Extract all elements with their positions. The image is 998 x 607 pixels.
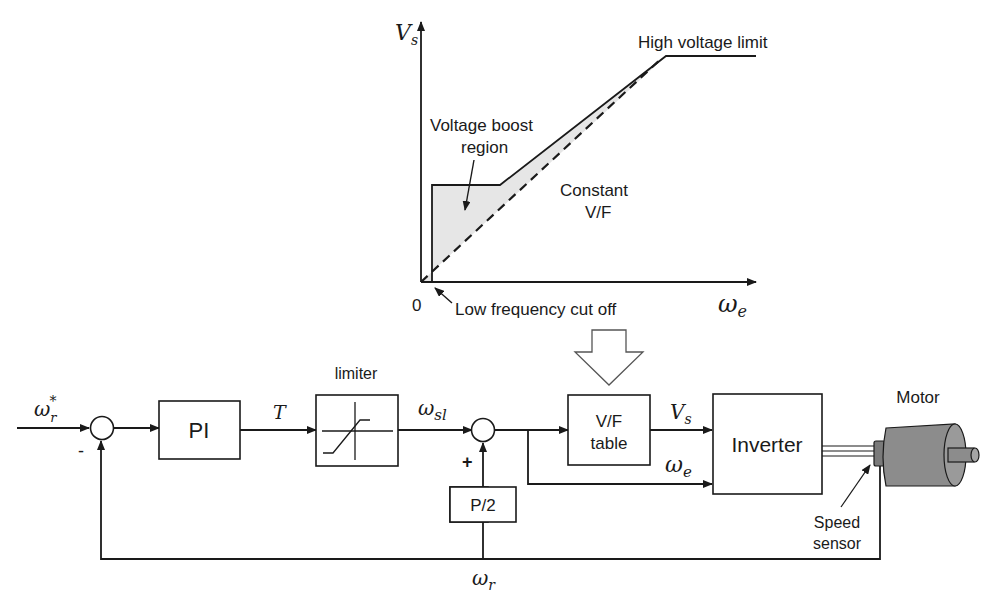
limiter-label: limiter bbox=[335, 365, 378, 382]
high-voltage-limit-label: High voltage limit bbox=[638, 33, 768, 52]
torque-label: T bbox=[273, 401, 287, 423]
vf-characteristic-graph: Vs ωe 0 High voltage limit Voltage boost… bbox=[395, 20, 768, 321]
we-label: ωe bbox=[665, 452, 692, 481]
vf-table-label-2: table bbox=[591, 434, 628, 453]
boosted-vf-curve bbox=[432, 56, 756, 282]
sum2-plus-sign: + bbox=[462, 452, 473, 472]
speed-sensor-arrow bbox=[841, 465, 870, 507]
slip-speed-label: ωsl bbox=[418, 396, 447, 424]
motor-label: Motor bbox=[896, 388, 940, 407]
low-freq-cutoff-arrow bbox=[435, 288, 452, 303]
voltage-boost-label-2: region bbox=[461, 138, 508, 157]
y-axis-label: Vs bbox=[395, 20, 418, 48]
block-diagram: ωr* - PI T limiter ωsl + P/2 bbox=[17, 365, 979, 593]
low-freq-cutoff-label: Low frequency cut off bbox=[455, 300, 617, 319]
vf-control-diagram: Vs ωe 0 High voltage limit Voltage boost… bbox=[0, 0, 998, 607]
origin-label: 0 bbox=[412, 296, 421, 315]
vf-table-label-1: V/F bbox=[596, 412, 622, 431]
rotor-speed-label: ωr bbox=[472, 566, 496, 593]
summing-junction-2 bbox=[472, 419, 495, 442]
p2-label: P/2 bbox=[470, 496, 496, 515]
pi-label: PI bbox=[189, 418, 210, 443]
voltage-boost-label-1: Voltage boost bbox=[430, 116, 533, 135]
vs-label: Vs bbox=[670, 400, 692, 427]
summing-junction-1 bbox=[91, 417, 114, 440]
x-axis-label: ωe bbox=[718, 290, 747, 321]
sum1-minus-sign: - bbox=[78, 441, 84, 461]
motor-icon bbox=[874, 424, 979, 486]
three-phase-wires bbox=[822, 446, 875, 456]
speed-sensor-label-1: Speed bbox=[814, 514, 860, 531]
speed-sensor-label-2: sensor bbox=[813, 535, 862, 552]
inverter-label: Inverter bbox=[731, 433, 802, 456]
constant-vf-label-1: Constant bbox=[560, 181, 628, 200]
speed-reference-label: ωr* bbox=[34, 393, 57, 425]
constant-vf-label-2: V/F bbox=[585, 203, 611, 222]
graph-to-table-arrow bbox=[575, 330, 643, 385]
